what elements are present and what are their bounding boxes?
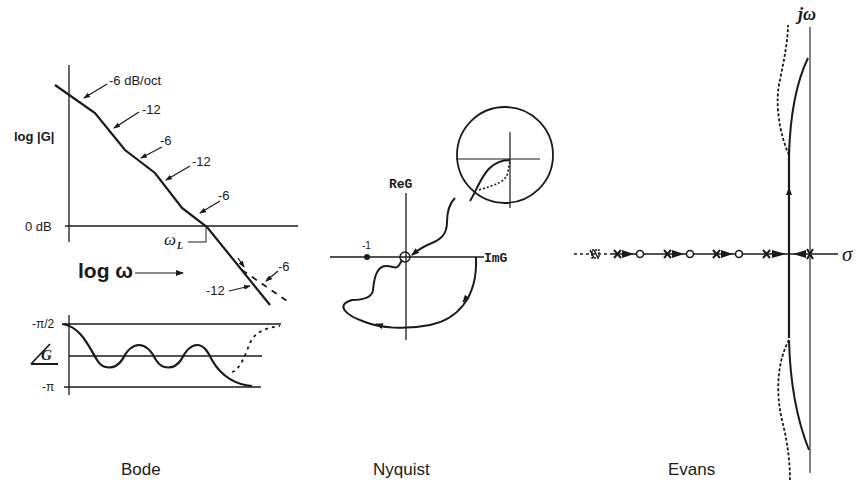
pole-arrow-in [763,250,786,258]
crossover-tick [188,228,206,242]
bode-magnitude-plot: log |G| 0 dB ω L log ω -6 dB/oct -12 -6 [14,65,298,305]
locus-lower-dashed [778,340,790,480]
svg-text:L: L [176,240,183,251]
svg-text:-6: -6 [160,133,172,148]
svg-text:log ω: log ω [78,259,133,282]
zero-db-label: 0 dB [25,219,52,234]
magnifier-inset [456,107,553,208]
phase-alt-dashed [232,326,280,372]
slope-annotation: -12 [206,283,250,298]
slope-annotation: -6 [266,259,290,281]
nyquist-horizontal-label: ImG [484,251,508,266]
pole-zero-pair [713,250,743,258]
crossover-label: ω L [164,230,183,251]
pole-zero-pair [614,250,644,258]
frequency-axis-label: log ω [78,259,183,282]
critical-point [364,254,370,260]
svg-text:G: G [41,347,52,363]
svg-text:-6: -6 [278,259,290,274]
svg-text:ω: ω [164,230,176,249]
svg-text:-12: -12 [192,154,211,169]
nyquist-vertical-label: ReG [389,177,413,192]
svg-text:-12: -12 [142,102,161,117]
magnifier-connector [412,198,455,255]
locus-upper-dashed [778,25,789,155]
slope-annotation: -12 [166,154,211,180]
phase-top-label: -π/2 [32,317,55,331]
svg-text:-6 dB/oct: -6 dB/oct [109,73,161,88]
slope-annotation: -12 [114,102,161,128]
nyquist-panel: ReG ImG -1 Nyquist [330,107,553,479]
locus-upper-branch [789,58,808,155]
bode-panel: log |G| 0 dB ω L log ω -6 dB/oct -12 -6 [14,65,298,479]
phase-bottom-label: -π [42,380,54,394]
svg-text:-12: -12 [206,283,225,298]
slope-annotation: -6 dB/oct [84,73,161,98]
bode-caption: Bode [121,460,161,479]
slope-annotation: -6 [200,188,230,213]
evans-caption: Evans [668,460,715,479]
locus-lower-branch [789,340,809,450]
figure-canvas: log |G| 0 dB ω L log ω -6 dB/oct -12 -6 [0,0,866,494]
magnitude-y-label: log |G| [14,129,55,144]
phase-y-label: G [31,344,58,364]
pole-zero-pair [664,250,694,258]
evans-panel: σ jω [574,4,854,480]
slope-annotation: -6 [141,133,172,158]
bode-phase-plot: -π/2 -π G [31,315,281,395]
nyquist-curve [343,257,476,328]
nyquist-caption: Nyquist [373,460,430,479]
phase-curve [62,324,252,386]
evans-horizontal-label: σ [842,242,854,266]
evans-vertical-label: jω [795,4,816,24]
critical-point-label: -1 [362,240,371,251]
